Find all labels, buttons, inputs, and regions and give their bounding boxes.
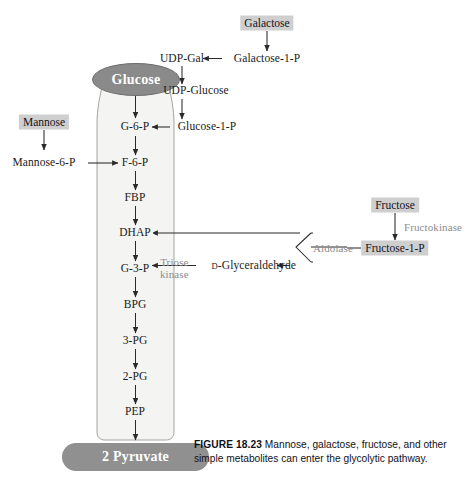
enzyme-aldolase: Aldolase (313, 242, 353, 254)
enzyme-fructokinase: Fructokinase (404, 221, 462, 233)
node-fructose-1-p: Fructose-1-P (361, 241, 428, 256)
enzyme-triose-kinase-line2: kinase (160, 268, 189, 280)
node-d-glyceraldehyde-stem: -Glyceraldehyde (218, 259, 296, 271)
node-d-glyceraldehyde: D-Glyceraldehyde (212, 260, 296, 272)
node-bpg: BPG (122, 299, 149, 311)
figure-number: FIGURE 18.23 (194, 439, 262, 450)
node-galactose-1-p: Galactose-1-P (234, 53, 300, 65)
node-udp-gal: UDP-Gal (160, 53, 204, 65)
node-3pg: 3-PG (121, 335, 150, 347)
substrate-galactose: Galactose (240, 16, 293, 31)
node-2pg: 2-PG (121, 371, 150, 383)
node-f6p: F-6-P (120, 157, 151, 169)
node-mannose-6-p: Mannose-6-P (12, 157, 75, 169)
substrate-fructose: Fructose (371, 198, 419, 213)
substrate-mannose: Mannose (19, 115, 69, 130)
node-pyruvate-label: 2 Pyruvate (102, 449, 169, 465)
node-dhap: DHAP (117, 227, 153, 239)
node-g3p: G-3-P (119, 263, 152, 275)
figure-canvas: Glucose G-6-P F-6-P FBP DHAP G-3-P BPG 3… (0, 0, 466, 485)
node-udp-glucose: UDP-Glucose (163, 85, 229, 97)
enzyme-triose-kinase: Triose kinase (160, 256, 189, 281)
figure-caption: FIGURE 18.23 Mannose, galactose, fructos… (194, 438, 458, 467)
node-glucose-1-p: Glucose-1-P (178, 121, 237, 133)
node-g6p: G-6-P (119, 121, 152, 133)
node-pep: PEP (123, 406, 147, 418)
node-fbp: FBP (123, 192, 148, 204)
node-pyruvate: 2 Pyruvate (62, 443, 209, 471)
aldolase-fork (296, 233, 311, 262)
node-glucose-label: Glucose (112, 72, 161, 88)
enzyme-triose-kinase-line1: Triose (160, 256, 189, 268)
